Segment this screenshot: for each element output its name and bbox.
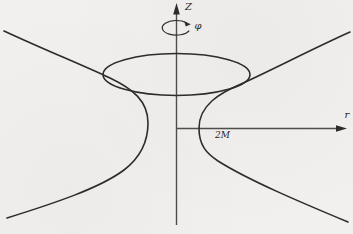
- r-axis-arrowhead: [336, 125, 347, 132]
- embedding-diagram-svg: Z φ r 2M: [0, 0, 353, 234]
- z-axis-label: Z: [184, 1, 193, 12]
- phi-arrowhead: [184, 21, 191, 26]
- figure-canvas: Z φ r 2M: [0, 0, 353, 234]
- radius-2m-label: 2M: [214, 130, 231, 140]
- r-axis-label: r: [345, 109, 351, 120]
- phi-label: φ: [195, 20, 202, 31]
- z-axis-arrowhead: [173, 3, 180, 15]
- funnel-right-profile-curve: [199, 32, 350, 222]
